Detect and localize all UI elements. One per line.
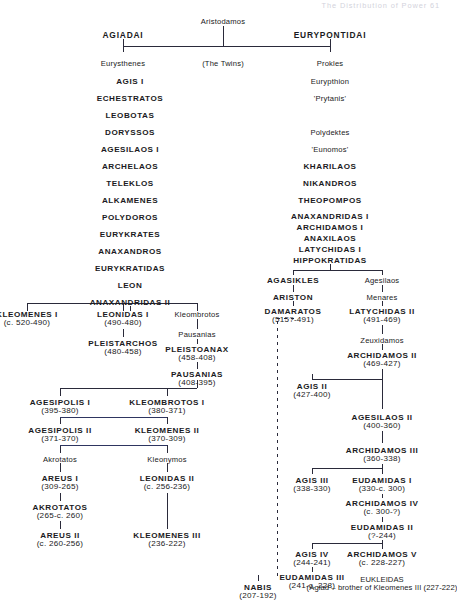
node-archelaos: ARCHELAOS	[102, 163, 158, 171]
node-name: ANAXANDRIDAS II	[90, 299, 171, 307]
connector-blue-agesipolis2	[60, 445, 167, 446]
connector-arch2-branch	[382, 369, 383, 379]
connector-ag1-up	[60, 388, 61, 396]
node-name: Kleonymos	[147, 456, 186, 464]
connector-leonidas-pleist	[123, 329, 124, 337]
connector-twins-bar	[123, 46, 330, 47]
connector-kleon-leon2	[167, 463, 168, 472]
node-eudamidas-ii: EUDAMIDAS II(?-244)	[351, 524, 413, 541]
connector-aristodamos-down	[223, 26, 224, 46]
connector-agis4-up	[312, 543, 313, 549]
node-name: ANAXILAOS	[304, 235, 357, 243]
node-name: Pausanias	[178, 331, 215, 339]
node-name: THEOPOMPOS	[298, 197, 362, 205]
connector-damaratos-dashed	[277, 321, 278, 576]
connector-paus-pleisto	[197, 339, 198, 344]
node-damaratos: DAMARATOS(515?-491)	[265, 308, 322, 325]
node-prytanis: 'Prytanis'	[314, 95, 346, 103]
node-name: AGASIKLES	[267, 277, 319, 285]
connector-akro-areus	[60, 463, 61, 472]
node-latychidas-i: LATYCHIDAS I	[299, 246, 362, 254]
node-doryssos: DORYSSOS	[105, 129, 155, 137]
node-eurykrates: EURYKRATES	[100, 231, 160, 239]
node-dates: (Agiad – brother of Kleomenes III (227-2…	[307, 584, 457, 592]
node-theopompos: THEOPOMPOS	[298, 197, 362, 205]
connector-kl1-up	[167, 388, 168, 396]
connector-eud1-arch4	[382, 494, 383, 498]
node-name: POLYDOROS	[102, 214, 158, 222]
node-anaxandridas-i: ANAXANDRIDAS I	[291, 213, 369, 221]
node-dates: (480-458)	[88, 348, 157, 356]
node-name: ARCHIDAMOS I	[297, 224, 364, 232]
node-dates: (c. 228-227)	[347, 559, 417, 567]
node-pleistoanax: PLEISTOANAX(458-408)	[165, 346, 228, 363]
connector-kl1-down	[167, 417, 168, 424]
node-polydektes: Polydektes	[310, 129, 349, 137]
node-name: Aristodamos	[201, 18, 245, 26]
node-dates: (c. 260-256)	[37, 540, 84, 548]
connector-agas-ariston	[293, 285, 294, 292]
connector-ag2-down	[60, 445, 61, 453]
node-dates: (490-480)	[97, 319, 149, 327]
node-name: 'Prytanis'	[314, 95, 346, 103]
connector-ages-menares	[382, 285, 383, 292]
node-agasikles: AGASIKLES	[267, 277, 319, 285]
node-name: AGESILAOS I	[101, 146, 159, 154]
node-name: ECHESTRATOS	[97, 95, 163, 103]
node-name: ARISTON	[273, 294, 313, 302]
node-dates: (408-395)	[171, 379, 223, 387]
node-dates: (427-400)	[293, 391, 330, 399]
node-agis-iv: AGIS IV(244-241)	[293, 551, 330, 568]
node-teleklos: TELEKLOS	[106, 180, 154, 188]
connector-leon2-kleo3	[167, 493, 168, 529]
node-dates: (309-265)	[41, 483, 78, 491]
node-nabis: NABIS(207-192)	[239, 584, 276, 601]
connector-agesilaos-down	[382, 270, 383, 275]
node-dates: (236-222)	[133, 540, 200, 548]
connector-ages2-arch3	[382, 431, 383, 443]
node-leon: LEON	[118, 282, 143, 290]
node-archidamos-iv: ARCHIDAMOS IV(c. 300-?)	[346, 500, 419, 517]
connector-areus-akro	[60, 493, 61, 501]
node-name: Kleombrotos	[175, 311, 220, 319]
node-agis-iii: AGIS III(338-330)	[293, 477, 330, 494]
node-zeuxidamos: Zeuxidamos	[360, 337, 403, 345]
connector-laty2-zeux	[382, 325, 383, 334]
connector-pleisto-paus2	[197, 362, 198, 369]
node-pausanias-1: Pausanias	[178, 331, 215, 339]
node-leonidas-i: LEONIDAS I(490-480)	[97, 311, 149, 328]
node-dates: (360-338)	[346, 455, 418, 463]
node-kleonymos: Kleonymos	[147, 456, 186, 464]
node-name: 'Eunomos'	[312, 146, 349, 154]
node-name: Agesilaos	[365, 277, 400, 285]
node-echestratos: ECHESTRATOS	[97, 95, 163, 103]
connector-agasikles-down	[293, 270, 294, 275]
node-agesipolis-i: AGESIPOLIS I(395-380)	[30, 399, 91, 416]
connector-hippo-split	[293, 270, 382, 271]
node-name: TELEKLOS	[106, 180, 154, 188]
node-nikandros: NIKANDROS	[303, 180, 357, 188]
node-name: ANAXANDROS	[98, 248, 162, 256]
node-dates: (c. 520-490)	[0, 319, 58, 327]
node-aristodamos: Aristodamos	[201, 18, 245, 26]
connector-ag1-down	[60, 417, 61, 424]
node-dates: (244-241)	[293, 559, 330, 567]
node-dates: (330-c. 300)	[352, 485, 412, 493]
node-agis-i: AGIS I	[116, 78, 144, 86]
connector-arch3-split	[312, 468, 382, 469]
node-name: EURYKRATIDAS	[95, 265, 165, 273]
node-the-twins: (The Twins)	[202, 60, 244, 68]
node-pausanias-2: PAUSANIAS(408-395)	[171, 371, 223, 388]
connector-eud1-up	[382, 468, 383, 474]
connector-arch2-split	[312, 379, 382, 380]
connector-ages2-up	[382, 379, 383, 409]
node-dates: (458-408)	[165, 354, 228, 362]
connector-blue-agesipolis	[60, 417, 167, 418]
node-agesipolis-ii: AGESIPOLIS II(371-370)	[28, 427, 91, 444]
node-agesilaos-r: Agesilaos	[365, 277, 400, 285]
node-areus-ii: AREUS II(c. 260-256)	[37, 532, 84, 549]
node-alkamenes: ALKAMENES	[102, 197, 158, 205]
node-dates: (c. 256-236)	[140, 483, 195, 491]
node-menares: Menares	[367, 294, 398, 302]
